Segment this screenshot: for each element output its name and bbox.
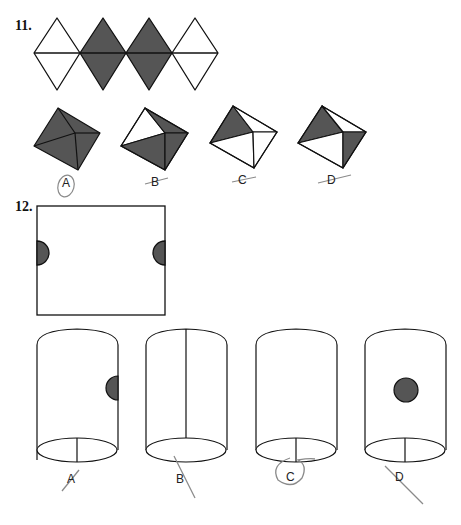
- q12-option-a-cylinder[interactable]: [37, 329, 118, 462]
- net-diamond-3: [126, 18, 172, 90]
- net-diamond-1: [34, 18, 80, 90]
- q11-option-b-pyramid[interactable]: [121, 108, 188, 170]
- q12-option-b-cylinder[interactable]: [146, 329, 227, 462]
- q11-option-c-label[interactable]: C: [238, 173, 247, 187]
- q12-pencil-marks: [62, 456, 423, 504]
- q11-net: [34, 18, 218, 90]
- net-diamond-2: [80, 18, 126, 90]
- q11-option-a-pyramid[interactable]: [34, 108, 100, 170]
- q12-option-b-label[interactable]: B: [176, 472, 184, 486]
- q12-option-c-label[interactable]: C: [286, 470, 295, 484]
- question-12-number: 12.: [15, 199, 33, 215]
- q12-option-d-label[interactable]: D: [395, 470, 404, 484]
- net-diamond-4: [172, 18, 218, 90]
- q11-option-c-pyramid[interactable]: [210, 106, 277, 168]
- q11-pencil-marks: [55, 173, 351, 198]
- q11-option-d-label[interactable]: D: [327, 173, 336, 187]
- q12-option-c-cylinder[interactable]: [256, 329, 337, 462]
- q12-option-d-cylinder[interactable]: [365, 329, 446, 462]
- q11-option-a-label[interactable]: A: [62, 176, 70, 190]
- q12-sheet: [37, 206, 165, 315]
- q11-option-b-label[interactable]: B: [151, 175, 159, 189]
- figure-canvas: [0, 0, 461, 525]
- q12-option-a-label[interactable]: A: [67, 472, 75, 486]
- question-11-number: 11.: [15, 18, 32, 34]
- q11-option-d-pyramid[interactable]: [298, 106, 366, 168]
